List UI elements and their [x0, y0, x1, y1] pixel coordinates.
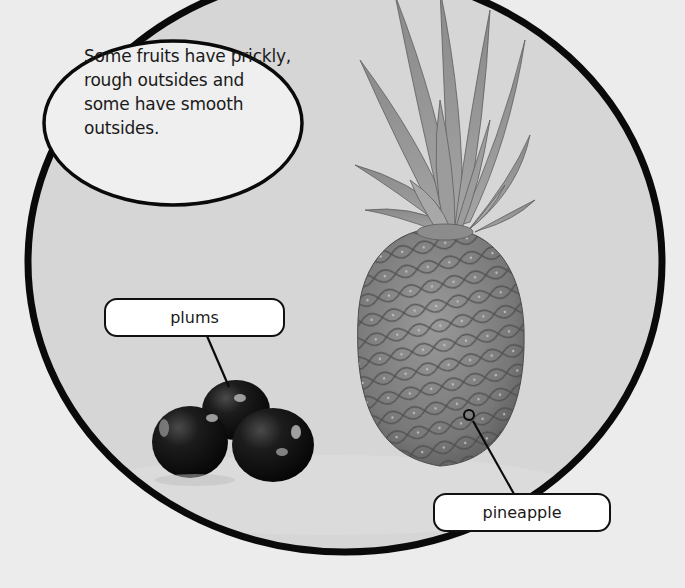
- pineapple-image: [358, 224, 524, 466]
- speech-bubble-text: Some fruits have prickly, rough outsides…: [84, 44, 294, 140]
- plums-label-text: plums: [170, 308, 219, 327]
- pineapple-label: pineapple: [433, 493, 611, 532]
- pineapple-label-text: pineapple: [483, 503, 562, 522]
- plums-label: plums: [104, 298, 285, 337]
- book-page: Some fruits have prickly, rough outsides…: [0, 0, 685, 588]
